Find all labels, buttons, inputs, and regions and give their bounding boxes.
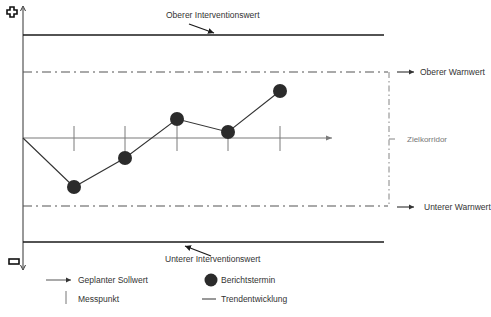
upper-warning-label: Oberer Warnwert <box>420 67 486 77</box>
upper-intervention-label: Oberer Interventionswert <box>166 10 260 20</box>
report-marker <box>273 84 287 98</box>
report-marker <box>67 180 81 194</box>
target-corridor-bracket <box>389 72 395 206</box>
lower-intervention-label: Unterer Interventionswert <box>165 254 261 264</box>
legend-label: Trendentwicklung <box>221 294 288 304</box>
target-corridor-label: Zielkorridor <box>407 135 447 144</box>
legend: Geplanter Sollwert Berichtstermin Messpu… <box>46 274 288 305</box>
report-marker <box>221 125 235 139</box>
legend-label: Geplanter Sollwert <box>78 275 149 285</box>
legend-label: Messpunkt <box>78 294 120 304</box>
legend-item-measurement-point: Messpunkt <box>66 291 120 304</box>
filled-circle-icon <box>205 274 218 287</box>
plus-icon <box>7 7 17 17</box>
minus-icon <box>9 259 19 264</box>
trend-line <box>23 91 280 187</box>
legend-item-report-date: Berichtstermin <box>205 274 276 287</box>
upper-intervention-arrow <box>189 24 214 33</box>
legend-label: Berichtstermin <box>221 275 276 285</box>
report-marker <box>118 151 132 165</box>
legend-item-planned-target: Geplanter Sollwert <box>46 275 149 285</box>
control-chart-diagram: Oberer Interventionswert Unterer Interve… <box>0 0 491 317</box>
report-marker <box>170 112 184 126</box>
lower-warning-label: Unterer Warnwert <box>424 202 491 212</box>
legend-item-trend: Trendentwicklung <box>202 294 288 304</box>
